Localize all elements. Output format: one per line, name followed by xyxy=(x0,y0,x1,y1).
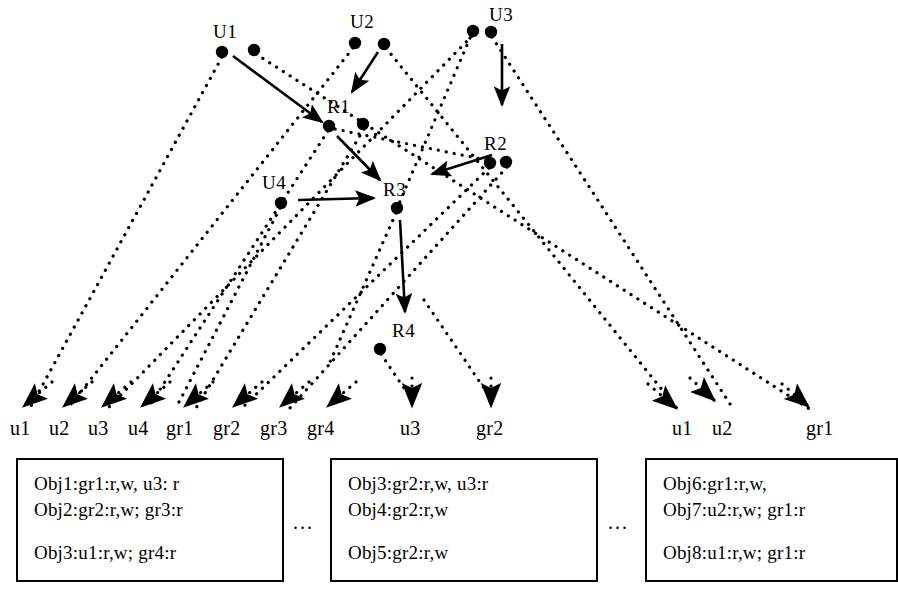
ellipsis-2: ... xyxy=(608,512,629,532)
dotted-edge-r4-dot-down-u3 xyxy=(381,354,412,400)
dotted-edge-layer xyxy=(30,36,811,412)
dotted-edge-u3-dot-to-u3sink xyxy=(108,36,472,408)
node-label-u1: U1 xyxy=(213,22,237,41)
dotted-edge-r1-dot-down-left xyxy=(148,131,328,408)
sink-gr4: gr4 xyxy=(307,418,335,438)
node-label-u2: U2 xyxy=(350,12,374,31)
node-dot-u2-0[interactable] xyxy=(349,37,361,49)
node-dot-u1-1[interactable] xyxy=(248,44,260,56)
solid-arrow-u4-to-r3 xyxy=(298,198,374,200)
node-dot-r4-0[interactable] xyxy=(374,343,386,355)
sink-u3: u3 xyxy=(88,418,109,438)
sink-arrow-tip-u4 xyxy=(142,382,170,406)
obj-box-3-line-2: Obj8:u1:r,w; gr1:r xyxy=(663,543,805,562)
node-label-u4: U4 xyxy=(262,173,286,192)
dotted-edge-r3-dot-down xyxy=(330,213,396,362)
obj-box-2: Obj3:gr2:r,w, u3:rObj4:gr2:r,wObj5:gr2:r… xyxy=(330,458,598,582)
sink-arrow-layer xyxy=(24,378,808,408)
sink-gr2-mid: gr2 xyxy=(476,418,504,438)
obj-box-2-line-1: Obj4:gr2:r,w xyxy=(348,500,448,519)
sink-u3-mid: u3 xyxy=(400,418,421,438)
node-dot-u1-0[interactable] xyxy=(216,46,228,58)
solid-arrow-u2-to-r1 xyxy=(352,52,378,92)
dotted-edge-r1b-dot-down xyxy=(196,129,364,408)
node-dot-u3-0[interactable] xyxy=(467,25,479,37)
dotted-edge-u2-dot-to-u2sink xyxy=(68,48,353,408)
obj-box-1: Obj1:gr1:r,w, u3: rObj2:gr2:r,w; gr3:rOb… xyxy=(16,458,284,582)
node-dot-r2-0[interactable] xyxy=(484,157,496,169)
node-label-u3: U3 xyxy=(489,5,513,24)
sink-arrow-tip-u1 xyxy=(24,382,52,406)
node-dot-r3-0[interactable] xyxy=(391,202,403,214)
sink-gr1-right: gr1 xyxy=(806,418,834,438)
node-dot-r2-1[interactable] xyxy=(500,156,512,168)
diagram-canvas: U1U2U3U4R1R2R3R4 u1u2u3u4gr1gr2gr3gr4u3g… xyxy=(0,0,898,599)
node-label-r1: R1 xyxy=(327,97,350,116)
solid-arrow-r1-to-r3 xyxy=(337,136,380,180)
dotted-edge-u2b-dot-to-u1sink-right xyxy=(386,48,680,412)
node-label-r3: R3 xyxy=(383,180,406,199)
dotted-edge-r4b-dot-down-gr2 xyxy=(424,300,492,400)
sink-arrow-tip-gr4 xyxy=(328,382,356,406)
node-dot-u4-0[interactable] xyxy=(275,197,287,209)
sink-arrow-tip-u3 xyxy=(103,382,131,406)
sink-u1: u1 xyxy=(10,418,31,438)
node-label-r4: R4 xyxy=(392,321,415,340)
sink-arrow-tip-u2-right xyxy=(690,378,714,400)
sink-arrow-tip-u2 xyxy=(64,382,92,406)
solid-arrow-r3-to-r4 xyxy=(400,220,405,312)
obj-box-1-line-2: Obj3:u1:r,w; gr4:r xyxy=(34,543,176,562)
obj-box-1-line-0: Obj1:gr1:r,w, u3: r xyxy=(34,474,179,493)
dotted-edge-u4-dot-down xyxy=(178,208,280,404)
obj-box-3: Obj6:gr1:r,w,Obj7:u2:r,w; gr1:rObj8:u1:r… xyxy=(645,458,898,582)
sink-gr1: gr1 xyxy=(166,418,194,438)
sink-u1-right: u1 xyxy=(672,418,693,438)
node-dot-u3-1[interactable] xyxy=(485,26,497,38)
sink-gr2: gr2 xyxy=(213,418,241,438)
dotted-edge-u1-dot-to-u1sink xyxy=(30,57,222,408)
sink-gr3: gr3 xyxy=(260,418,288,438)
obj-box-3-line-1: Obj7:u2:r,w; gr1:r xyxy=(663,500,805,519)
sink-u2-right: u2 xyxy=(712,418,733,438)
node-dot-u2-1[interactable] xyxy=(378,38,390,50)
dotted-edge-u3b-dot-to-u2sink-right xyxy=(492,37,730,404)
dotted-edge-cross-u3-to-r3 xyxy=(398,38,470,206)
node-dot-r1-1[interactable] xyxy=(357,118,369,130)
obj-box-3-line-0: Obj6:gr1:r,w, xyxy=(663,474,767,493)
obj-box-2-line-2: Obj5:gr2:r,w xyxy=(348,543,448,562)
obj-box-1-line-1: Obj2:gr2:r,w; gr3:r xyxy=(34,500,183,519)
sink-u4: u4 xyxy=(128,418,149,438)
solid-arrow-r2-to-left xyxy=(432,155,492,174)
node-label-r2: R2 xyxy=(484,134,507,153)
sink-arrow-tip-gr1-right xyxy=(782,384,808,406)
node-dot-r1-0[interactable] xyxy=(323,120,335,132)
sink-u2: u2 xyxy=(49,418,70,438)
obj-box-2-line-0: Obj3:gr2:r,w, u3:r xyxy=(348,474,488,493)
ellipsis-1: ... xyxy=(293,512,314,532)
